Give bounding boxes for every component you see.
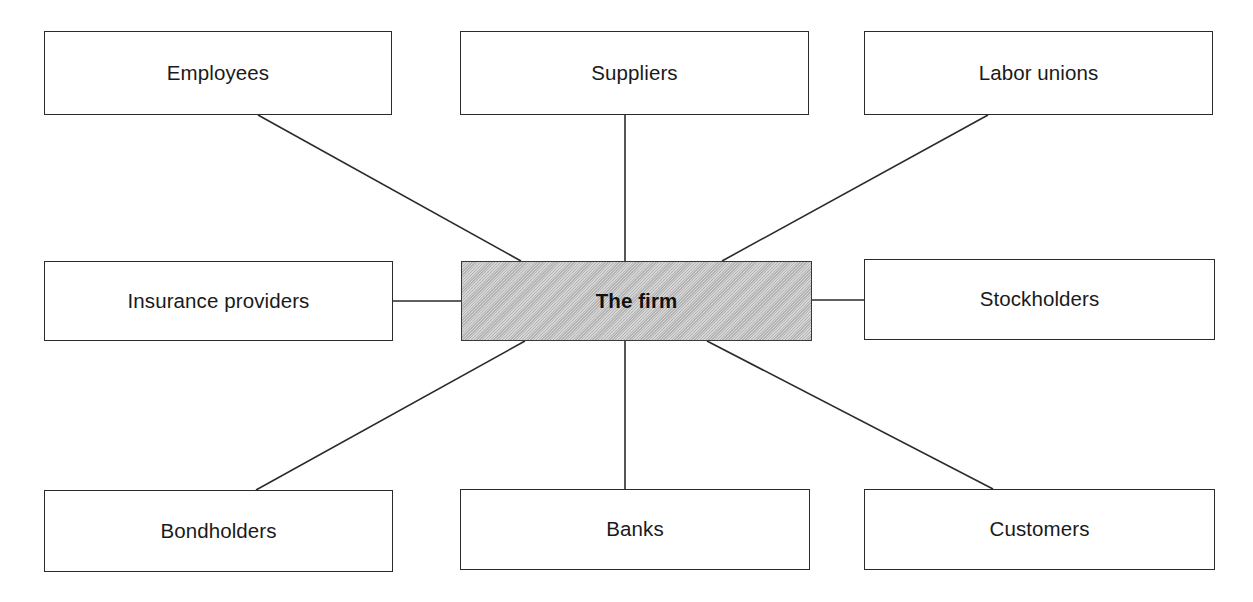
node-label-labor-unions: Labor unions — [979, 63, 1099, 84]
node-label-customers: Customers — [989, 519, 1089, 540]
node-label-insurance-providers: Insurance providers — [128, 291, 310, 312]
node-box-suppliers[interactable]: Suppliers — [460, 31, 809, 115]
connector-firm-to-bondholders — [256, 341, 525, 490]
node-label-bondholders: Bondholders — [160, 521, 276, 542]
node-label-the-firm: The firm — [596, 291, 678, 312]
node-box-insurance-providers[interactable]: Insurance providers — [44, 261, 393, 341]
node-box-banks[interactable]: Banks — [460, 489, 810, 570]
node-box-customers[interactable]: Customers — [864, 489, 1215, 570]
connector-labor-unions-to-firm — [722, 115, 988, 261]
node-label-banks: Banks — [606, 519, 663, 540]
node-label-stockholders: Stockholders — [980, 289, 1100, 310]
stakeholder-diagram: EmployeesSuppliersLabor unionsInsurance … — [0, 0, 1253, 602]
connector-employees-to-firm — [258, 115, 521, 261]
node-box-labor-unions[interactable]: Labor unions — [864, 31, 1213, 115]
node-box-bondholders[interactable]: Bondholders — [44, 490, 393, 572]
node-box-employees[interactable]: Employees — [44, 31, 392, 115]
node-box-the-firm[interactable]: The firm — [461, 261, 812, 341]
node-label-suppliers: Suppliers — [591, 63, 677, 84]
node-label-employees: Employees — [167, 63, 269, 84]
connector-firm-to-customers — [707, 341, 993, 489]
node-box-stockholders[interactable]: Stockholders — [864, 259, 1215, 340]
